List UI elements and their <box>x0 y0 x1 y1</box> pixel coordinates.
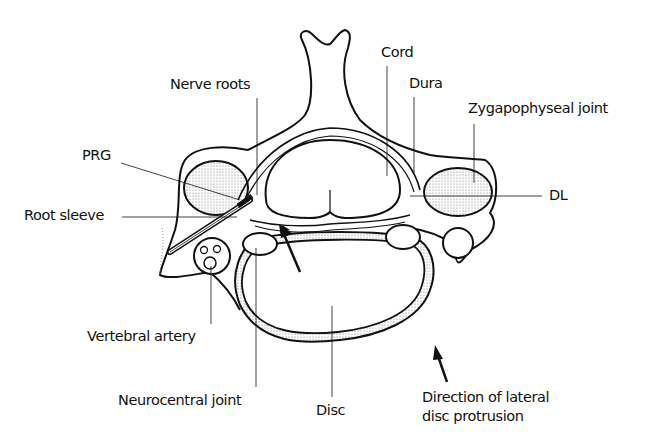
right-facet-joint <box>424 168 492 216</box>
vertebra-drawing <box>0 0 658 448</box>
right-vertebral-foramen <box>443 228 473 258</box>
vertebra-diagram: Nerve roots Cord Dura Zygapophyseal join… <box>0 0 658 448</box>
label-direction-line2: disc protrusion <box>422 408 524 425</box>
label-zygapophyseal-joint: Zygapophyseal joint <box>468 100 608 117</box>
label-dura: Dura <box>409 75 443 92</box>
label-prg: PRG <box>82 147 111 164</box>
label-root-sleeve: Root sleeve <box>24 207 104 224</box>
label-dl: DL <box>549 187 567 204</box>
label-cord: Cord <box>381 44 413 61</box>
label-direction-line1: Direction of lateral <box>422 389 549 406</box>
right-neurocentral-joint <box>386 225 420 249</box>
label-nerve-roots: Nerve roots <box>170 76 250 93</box>
direction-arrow-icon <box>438 356 447 382</box>
label-vertebral-artery: Vertebral artery <box>87 328 196 345</box>
left-neurocentral-joint <box>243 233 277 255</box>
label-disc: Disc <box>316 402 345 419</box>
label-neurocentral-joint: Neurocentral joint <box>118 392 241 409</box>
